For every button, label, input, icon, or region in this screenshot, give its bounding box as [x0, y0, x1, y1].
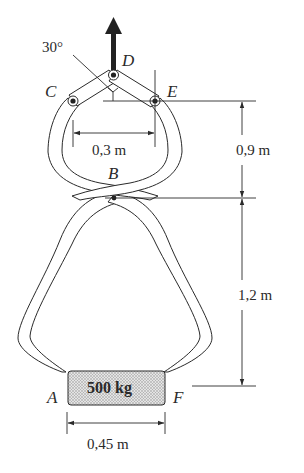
tong-arm-right-lower [108, 192, 212, 372]
point-a-label: A [46, 388, 58, 407]
lifting-force-arrow [105, 17, 122, 72]
upper-height-label: 0,9 m [236, 142, 271, 158]
tongs-diagram: 30° D C E B A F 0,3 m 0,9 m 1,2 m 500 kg… [0, 0, 304, 473]
angle-label: 30° [42, 39, 63, 55]
point-e-label: E [166, 82, 178, 101]
point-d-label: D [121, 51, 135, 70]
point-f-label: F [172, 388, 184, 407]
pin-c [68, 96, 78, 106]
pin-d [109, 70, 119, 80]
tong-arm-left-lower [18, 192, 120, 372]
load-label: 500 kg [87, 379, 132, 397]
ce-width-label: 0,3 m [92, 142, 127, 158]
block-width-label: 0,45 m [87, 436, 129, 452]
point-c-label: C [45, 82, 57, 101]
point-b-label: B [108, 164, 119, 183]
lower-height-label: 1,2 m [238, 287, 273, 303]
